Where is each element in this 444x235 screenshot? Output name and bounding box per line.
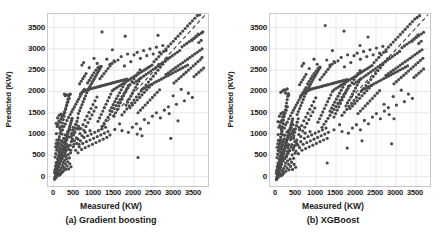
y-tick-label: 500 <box>15 150 45 159</box>
x-tick-label: 1000 <box>85 188 101 197</box>
x-tick-label: 2500 <box>145 188 161 197</box>
y-tick-label: 3000 <box>237 43 267 52</box>
plot-area-a <box>47 13 209 187</box>
x-tick-label: 2000 <box>125 188 141 197</box>
x-tick-label: 3000 <box>165 188 181 197</box>
x-tick-label: 2500 <box>367 188 383 197</box>
x-tick-label: 0 <box>51 188 55 197</box>
x-tick-label: 1500 <box>327 188 343 197</box>
plot-wrap-b: Predicted (KW) 0500100015002000250030003… <box>222 0 444 235</box>
x-tick-label: 500 <box>67 188 79 197</box>
x-tick-label: 0 <box>273 188 277 197</box>
y-tick-label: 1500 <box>237 107 267 116</box>
scatter-svg-a <box>48 14 208 186</box>
panel-caption-a: (a) Gradient boosting <box>0 215 222 225</box>
x-tick-label: 3500 <box>407 188 423 197</box>
figure-container: Predicted (KW) 0500100015002000250030003… <box>0 0 444 235</box>
panel-xgboost: Predicted (KW) 0500100015002000250030003… <box>222 0 444 235</box>
x-axis-label-b: Measured (KW) <box>222 201 444 211</box>
scatter-svg-b <box>270 14 430 186</box>
y-tick-label: 3500 <box>237 22 267 31</box>
x-tick-label: 500 <box>289 188 301 197</box>
x-tick-label: 2000 <box>347 188 363 197</box>
y-tick-label: 500 <box>237 150 267 159</box>
panel-caption-b: (b) XGBoost <box>222 215 444 225</box>
y-tick-label: 2500 <box>15 65 45 74</box>
y-tick-label: 2000 <box>237 86 267 95</box>
x-axis-label-a: Measured (KW) <box>0 201 222 211</box>
y-tick-label: 1000 <box>15 129 45 138</box>
y-tick-label: 2500 <box>237 65 267 74</box>
x-tick-label: 1000 <box>307 188 323 197</box>
plot-area-b <box>269 13 431 187</box>
y-tick-label: 3000 <box>15 43 45 52</box>
panel-gradient-boosting: Predicted (KW) 0500100015002000250030003… <box>0 0 222 235</box>
y-tick-label: 1500 <box>15 107 45 116</box>
x-tick-labels-a: 0500100015002000250030003500 <box>0 188 222 200</box>
plot-wrap-a: Predicted (KW) 0500100015002000250030003… <box>0 0 222 235</box>
x-tick-label: 3500 <box>185 188 201 197</box>
y-tick-label: 2000 <box>15 86 45 95</box>
y-tick-label: 0 <box>237 171 267 180</box>
y-tick-label: 0 <box>15 171 45 180</box>
x-tick-label: 1500 <box>105 188 121 197</box>
x-tick-label: 3000 <box>387 188 403 197</box>
y-tick-label: 1000 <box>237 129 267 138</box>
x-tick-labels-b: 0500100015002000250030003500 <box>222 188 444 200</box>
y-tick-label: 3500 <box>15 22 45 31</box>
